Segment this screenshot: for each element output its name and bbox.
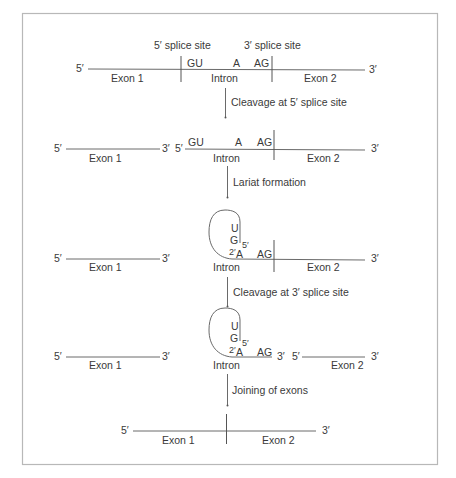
label-branch-a: A — [236, 248, 243, 260]
label-exon1: Exon 1 — [162, 434, 195, 446]
label-2prime: 2′ — [229, 247, 236, 257]
label-a: A — [235, 136, 242, 148]
label-exon2: Exon 2 — [304, 72, 337, 84]
label-3prime: 3′ — [369, 63, 377, 75]
label-intron: Intron — [213, 261, 240, 273]
step-label-3: Cleavage at 3′ splice site — [233, 286, 349, 298]
rna-strand — [88, 69, 365, 70]
label-3prime: 3′ — [162, 350, 170, 362]
label-exon2: Exon 2 — [307, 152, 340, 164]
splicing-diagram: 5′ splice site 3′ splice site 5′ GU A AG… — [0, 0, 456, 478]
label-2prime: 2′ — [229, 345, 236, 355]
label-u: U — [231, 222, 239, 234]
label-5prime-small: 5′ — [242, 338, 249, 348]
label-5prime: 5′ — [54, 350, 62, 362]
row-joined-exons: 5′ 3′ Exon 1 Exon 2 — [121, 414, 330, 446]
label-3prime: 3′ — [322, 424, 330, 436]
label-3prime: 3′ — [162, 142, 170, 154]
row-pre-mrna: 5′ splice site 3′ splice site 5′ GU A AG… — [76, 39, 377, 84]
label-ag: AG — [254, 57, 269, 69]
step-label-2: Lariat formation — [233, 176, 306, 188]
step-arrow-3: Cleavage at 3′ splice site — [227, 277, 349, 308]
label-5prime: 5′ — [175, 142, 183, 154]
label-exon1: Exon 1 — [89, 359, 122, 371]
label-5prime: 5′ — [121, 424, 129, 436]
label-ag: AG — [257, 136, 272, 148]
label-exon2: Exon 2 — [331, 359, 364, 371]
label-ag: AG — [257, 346, 272, 358]
label-exon2: Exon 2 — [262, 434, 295, 446]
label-3prime: 3′ — [371, 252, 379, 264]
label-g: G — [230, 332, 238, 344]
label-3prime: 3′ — [371, 350, 379, 362]
label-branch-a: A — [236, 346, 243, 358]
row-cleavage-3: 5′ 3′ Exon 1 U G 5′ 2′ A AG 3′ Intron 5′… — [54, 308, 379, 371]
label-g: G — [230, 234, 238, 246]
label-5prime: 5′ — [292, 350, 300, 362]
label-gu: GU — [188, 136, 204, 148]
step-label-4: Joining of exons — [232, 384, 308, 396]
label-exon2: Exon 2 — [307, 261, 340, 273]
step-arrow-4: Joining of exons — [227, 374, 308, 407]
step-label-1: Cleavage at 5′ splice site — [231, 96, 347, 108]
label-5-splice-site: 5′ splice site — [154, 39, 211, 51]
label-a: A — [233, 57, 240, 69]
label-intron: Intron — [213, 359, 240, 371]
label-3prime: 3′ — [371, 142, 379, 154]
label-3prime: 3′ — [277, 350, 285, 362]
row-lariat: 5′ 3′ Exon 1 U G 5′ 2′ A AG 3′ Intron Ex… — [54, 210, 379, 273]
label-exon1: Exon 1 — [111, 72, 144, 84]
label-5prime: 5′ — [76, 62, 84, 74]
label-3-splice-site: 3′ splice site — [244, 39, 301, 51]
label-exon1: Exon 1 — [89, 261, 122, 273]
label-5prime: 5′ — [54, 252, 62, 264]
label-intron: Intron — [211, 72, 238, 84]
step-arrow-2: Lariat formation — [227, 166, 307, 199]
step-arrow-1: Cleavage at 5′ splice site — [225, 88, 347, 119]
label-u: U — [231, 320, 239, 332]
row-cleavage-5: 5′ 3′ 5′ GU A AG 3′ Exon 1 Intron Exon 2 — [54, 130, 379, 164]
label-ag: AG — [257, 248, 272, 260]
label-gu: GU — [187, 57, 203, 69]
label-intron: Intron — [213, 152, 240, 164]
label-3prime: 3′ — [162, 252, 170, 264]
label-5prime: 5′ — [54, 142, 62, 154]
label-5prime-small: 5′ — [242, 240, 249, 250]
label-exon1: Exon 1 — [89, 152, 122, 164]
